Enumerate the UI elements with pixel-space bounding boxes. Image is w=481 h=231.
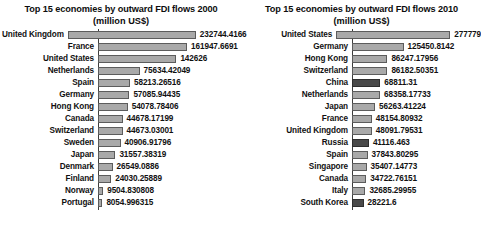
category-label: Netherlands — [2, 65, 98, 77]
category-label: United Kingdom — [2, 29, 68, 41]
bar-value-label: 277779 — [450, 29, 481, 41]
category-label: France — [242, 113, 352, 125]
chart-title-2010: Top 15 economies by outward FDI flows 20… — [242, 0, 481, 16]
bar — [98, 43, 187, 51]
bar-value-label: 37843.80295 — [368, 149, 419, 161]
chart-panel-2000: Top 15 economies by outward FDI flows 20… — [0, 0, 240, 231]
bar-track: 26549.0886 — [98, 161, 240, 173]
bar-row: China68811.31 — [242, 77, 481, 89]
bar-row: Hong Kong54078.78406 — [2, 101, 240, 113]
bar-value-label: 40906.91796 — [121, 137, 172, 149]
bar-row: Portugal8054.996315 — [2, 197, 240, 209]
bar-row: Canada44678.17199 — [2, 113, 240, 125]
bar-row: Norway9504.830808 — [2, 185, 240, 197]
bar-row: Germany57085.94435 — [2, 89, 240, 101]
category-label: Norway — [2, 185, 98, 197]
bar-track: 86247.17956 — [352, 53, 481, 65]
plot-area-2010: United States277779Germany125450.8142Hon… — [242, 29, 481, 209]
bar-value-label: 125450.8142 — [404, 41, 455, 53]
plot-area-2000: United Kingdom232744.4166France161947.66… — [2, 29, 240, 209]
bar-track: 75634.42049 — [98, 65, 240, 77]
bar-row: South Korea28221.6 — [242, 197, 481, 209]
bar-track: 8054.996315 — [98, 197, 240, 209]
bar-row: Sweden40906.91796 — [2, 137, 240, 149]
bar-row: Japan31557.38319 — [2, 149, 240, 161]
bar — [352, 43, 404, 51]
bar-value-label: 48154.80932 — [372, 113, 423, 125]
bar — [352, 175, 366, 183]
category-label: Japan — [2, 149, 98, 161]
bar-track: 68358.17733 — [352, 89, 481, 101]
bar-track: 37843.80295 — [352, 149, 481, 161]
bar-value-label: 48091.79531 — [372, 125, 423, 137]
category-label: Germany — [2, 89, 98, 101]
chart-panel-2010: Top 15 economies by outward FDI flows 20… — [240, 0, 481, 231]
category-label: Russia — [242, 137, 352, 149]
bar-value-label: 161947.6691 — [187, 41, 238, 53]
bar-value-label: 35407.14773 — [367, 161, 418, 173]
bar-value-label: 8054.996315 — [102, 197, 153, 209]
bar-value-label: 54078.78406 — [128, 101, 179, 113]
bar-track: 125450.8142 — [352, 41, 481, 53]
bar-row: Italy32685.29955 — [242, 185, 481, 197]
bar-track: 41116.463 — [352, 137, 481, 149]
bar-track: 44673.03001 — [98, 125, 240, 137]
bar — [98, 91, 129, 99]
category-label: Finland — [2, 173, 98, 185]
category-label: South Korea — [242, 197, 352, 209]
bar-row: Netherlands75634.42049 — [2, 65, 240, 77]
bar-value-label: 32685.29955 — [365, 185, 416, 197]
bar-track: 40906.91796 — [98, 137, 240, 149]
bar — [98, 175, 111, 183]
bar-track: 57085.94435 — [98, 89, 240, 101]
bar-row: Denmark26549.0886 — [2, 161, 240, 173]
bar-track: 142626 — [98, 53, 240, 65]
bar — [352, 163, 367, 171]
bar-row: United States142626 — [2, 53, 240, 65]
bar-row: Germany125450.8142 — [242, 41, 481, 53]
chart-subtitle-2010: (million US$) — [242, 16, 481, 27]
bar-row: Finland24030.25889 — [2, 173, 240, 185]
bar-value-label: 9504.830808 — [103, 185, 154, 197]
bar — [352, 103, 375, 111]
bar — [352, 79, 380, 87]
bar-value-label: 24030.25889 — [111, 173, 162, 185]
bar — [98, 103, 128, 111]
bar-value-label: 26549.0886 — [113, 161, 159, 173]
bar-value-label: 31557.38319 — [115, 149, 166, 161]
bar — [336, 31, 450, 39]
bar-row: Switzerland44673.03001 — [2, 125, 240, 137]
bar-value-label: 58213.26516 — [130, 77, 181, 89]
bar-row: France161947.6691 — [2, 41, 240, 53]
bar-track: 48091.79531 — [352, 125, 481, 137]
bar-track: 35407.14773 — [352, 161, 481, 173]
bar-track: 232744.4166 — [68, 29, 247, 41]
bar — [98, 139, 121, 147]
bar-track: 56263.41224 — [352, 101, 481, 113]
bar-track: 68811.31 — [352, 77, 481, 89]
bar-track: 277779 — [336, 29, 481, 41]
bar-value-label: 56263.41224 — [375, 101, 426, 113]
category-label: Switzerland — [242, 65, 352, 77]
category-label: United States — [2, 53, 98, 65]
bar — [352, 187, 365, 195]
bar — [98, 115, 123, 123]
bar-rows-2000: United Kingdom232744.4166France161947.66… — [2, 29, 240, 209]
bar-track: 44678.17199 — [98, 113, 240, 125]
bar-value-label: 41116.463 — [369, 137, 410, 149]
bar-track: 58213.26516 — [98, 77, 240, 89]
bar-row: United States277779 — [242, 29, 481, 41]
chart-subtitle-2000: (million US$) — [2, 16, 240, 27]
bar-row: Japan56263.41224 — [242, 101, 481, 113]
bar — [68, 31, 196, 39]
bar-row: Netherlands68358.17733 — [242, 89, 481, 101]
bar-row: Hong Kong86247.17956 — [242, 53, 481, 65]
bar — [98, 163, 113, 171]
bar-row: Switzerland86182.50351 — [242, 65, 481, 77]
bar-value-label: 86247.17956 — [387, 53, 438, 65]
bar-value-label: 44678.17199 — [123, 113, 174, 125]
bar — [352, 127, 372, 135]
bar — [98, 55, 176, 63]
bar — [352, 199, 364, 207]
bar-value-label: 28221.6 — [364, 197, 397, 209]
